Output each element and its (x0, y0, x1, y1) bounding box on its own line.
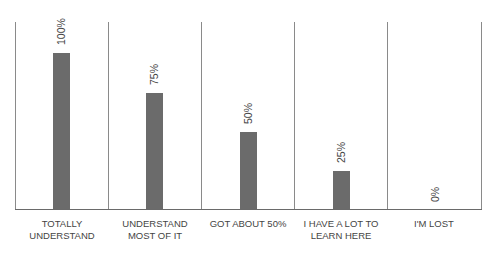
category-label-line: UNDERSTAND (109, 218, 201, 230)
value-label: 100% (55, 18, 67, 45)
category-label: UNDERSTAND MOST OF IT (109, 218, 201, 242)
category-label-line: LEARN HERE (295, 230, 387, 242)
value-label: 50% (242, 103, 254, 124)
separator-line (15, 22, 16, 210)
category-label: GOT ABOUT 50% (202, 218, 294, 230)
category-label-line: MOST OF IT (109, 230, 201, 242)
bar-lot-to-learn (333, 171, 350, 209)
category-label: I HAVE A LOT TO LEARN HERE (295, 218, 387, 242)
x-axis-baseline (15, 209, 482, 210)
value-label: 25% (335, 142, 347, 163)
value-label: 0% (429, 187, 441, 202)
bar-understand-most (146, 93, 163, 209)
category-label-line: I HAVE A LOT TO (295, 218, 387, 230)
separator-line (108, 22, 109, 210)
value-label: 75% (148, 64, 160, 85)
separator-line (201, 22, 202, 210)
category-label-line: UNDERSTAND (16, 230, 108, 242)
category-label: I'M LOST (388, 218, 480, 230)
bar-chart: 100% 75% 50% 25% 0% TOTALLY UNDERSTAND U… (0, 0, 497, 254)
separator-line (294, 22, 295, 210)
category-label-line: GOT ABOUT 50% (202, 218, 294, 230)
separator-line (481, 22, 482, 210)
category-label-line: I'M LOST (388, 218, 480, 230)
separator-line (387, 22, 388, 210)
category-label-line: TOTALLY (16, 218, 108, 230)
bar-totally-understand (53, 53, 70, 209)
bar-got-about-50 (240, 132, 257, 209)
category-label: TOTALLY UNDERSTAND (16, 218, 108, 242)
